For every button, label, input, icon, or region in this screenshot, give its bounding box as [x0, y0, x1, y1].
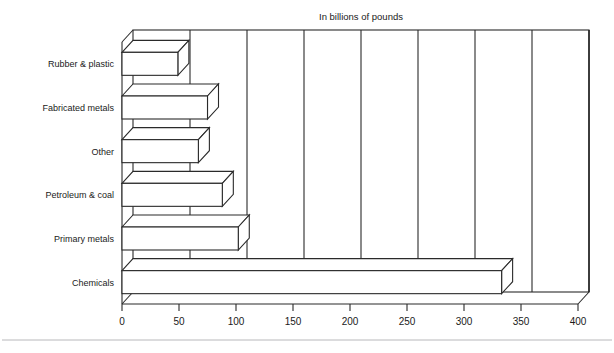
category-label: Chemicals: [72, 278, 115, 288]
bar: [122, 171, 233, 206]
category-label: Rubber & plastic: [48, 59, 115, 69]
category-label: Petroleum & coal: [45, 190, 114, 200]
category-labels: Rubber & plasticFabricated metalsOtherPe…: [42, 59, 114, 287]
axis-ticks: 050100150200250300350400: [119, 304, 587, 327]
bar: [122, 84, 219, 119]
bar: [122, 128, 209, 163]
depth-edge-top-left: [122, 30, 133, 42]
bar: [122, 259, 513, 294]
bar-chart: In billions of pounds Rubber & plasticFa…: [0, 0, 614, 353]
x-tick-label: 200: [342, 316, 359, 327]
x-tick-label: 50: [173, 316, 185, 327]
x-tick-label: 0: [119, 316, 125, 327]
x-tick-label: 350: [513, 316, 530, 327]
depth-edge-bottom-right: [578, 292, 589, 304]
x-tick-label: 400: [570, 316, 587, 327]
bar: [122, 215, 249, 250]
bar: [122, 40, 189, 75]
x-tick-label: 150: [285, 316, 302, 327]
category-label: Fabricated metals: [42, 103, 114, 113]
x-tick-label: 300: [456, 316, 473, 327]
x-tick-label: 100: [228, 316, 245, 327]
category-label: Other: [91, 147, 114, 157]
chart-canvas: In billions of pounds Rubber & plasticFa…: [0, 0, 614, 353]
x-tick-label: 250: [399, 316, 416, 327]
chart-title: In billions of pounds: [319, 11, 403, 22]
category-label: Primary metals: [54, 234, 115, 244]
